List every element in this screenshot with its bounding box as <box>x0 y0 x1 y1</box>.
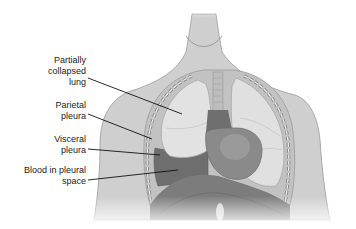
label-partially-collapsed-lung: Partially collapsed lung <box>28 55 86 88</box>
hemothorax-diagram: Partially collapsed lung Parietal pleura… <box>0 0 356 229</box>
label-parietal-pleura: Parietal pleura <box>28 100 86 122</box>
label-visceral-pleura: Visceral pleura <box>28 134 86 156</box>
label-blood-in-pleural-space: Blood in pleural space <box>8 165 86 187</box>
